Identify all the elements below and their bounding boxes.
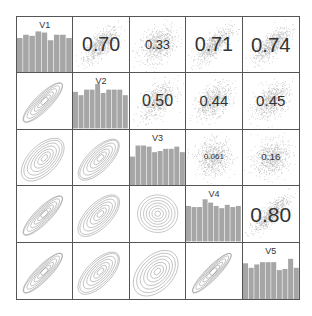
correlation-value: 0.71 — [186, 35, 241, 55]
density-contour-panel-v3-v1 — [17, 130, 73, 186]
correlation-value: 0.33 — [130, 38, 185, 51]
correlation-panel-v1-v3: 0.33 — [130, 17, 186, 73]
correlation-value: 0.80 — [243, 203, 299, 224]
correlation-value: 0.45 — [243, 94, 299, 109]
density-contour-panel-v5-v3 — [130, 243, 186, 299]
correlation-value: 0.74 — [243, 35, 299, 55]
correlation-panel-v1-v5: 0.74 — [243, 17, 299, 73]
correlation-panel-v3-v5: 0.16 — [243, 130, 299, 186]
correlation-value: 0.44 — [186, 94, 241, 109]
variable-label: V2 — [73, 76, 128, 86]
correlation-value: 0.70 — [73, 35, 128, 55]
variable-label: V3 — [130, 133, 185, 143]
correlation-panel-v1-v2: 0.70 — [73, 17, 129, 73]
variable-label: V4 — [186, 189, 241, 199]
correlation-panel-v3-v4: 0.061 — [186, 130, 242, 186]
density-contour-panel-v2-v1 — [17, 73, 73, 129]
correlation-panel-v2-v3: 0.50 — [130, 73, 186, 129]
correlation-panel-v2-v4: 0.44 — [186, 73, 242, 129]
density-contour-panel-v5-v4 — [186, 243, 242, 299]
density-contour-panel-v4-v3 — [130, 186, 186, 242]
correlation-value: 0.16 — [243, 153, 299, 163]
histogram-panel-v5: V5 — [243, 243, 299, 299]
variable-label: V5 — [243, 246, 299, 256]
histogram-panel-v4: V4 — [186, 186, 242, 242]
correlation-panel-v4-v5: 0.80 — [243, 186, 299, 242]
correlation-value: 0.061 — [186, 153, 241, 161]
histogram-panel-v1: V1 — [17, 17, 73, 73]
density-contour-panel-v5-v2 — [73, 243, 129, 299]
histogram-panel-v3: V3 — [130, 130, 186, 186]
scatterplot-matrix: V10.700.330.710.74V20.500.440.45V30.0610… — [16, 16, 300, 300]
density-contour-panel-v4-v2 — [73, 186, 129, 242]
density-contour-panel-v4-v1 — [17, 186, 73, 242]
density-contour-panel-v5-v1 — [17, 243, 73, 299]
correlation-panel-v1-v4: 0.71 — [186, 17, 242, 73]
density-contour-panel-v3-v2 — [73, 130, 129, 186]
histogram-panel-v2: V2 — [73, 73, 129, 129]
variable-label: V1 — [17, 20, 72, 30]
correlation-value: 0.50 — [130, 93, 185, 109]
correlation-panel-v2-v5: 0.45 — [243, 73, 299, 129]
